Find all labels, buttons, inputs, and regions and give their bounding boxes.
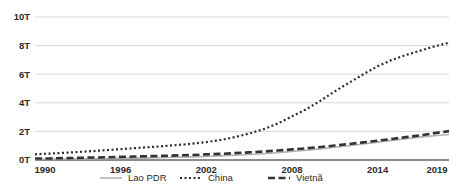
- y-axis-tick-label: 10T: [14, 11, 31, 22]
- chart-canvas: 0T2T4T6T8T10T 199019962002200820142019 L…: [0, 0, 452, 190]
- legend-label: China: [208, 172, 234, 183]
- y-axis-tick-label: 0T: [19, 154, 30, 165]
- series-line-lao-pdr: [35, 135, 449, 160]
- y-axis-tick-label: 6T: [19, 69, 30, 80]
- y-axis-tick-label: 4T: [19, 97, 30, 108]
- gridlines: [35, 17, 449, 131]
- legend-label: Lao PDR: [128, 172, 167, 183]
- x-axis-tick-label: 2019: [426, 164, 447, 175]
- y-axis-tick-labels: 0T2T4T6T8T10T: [14, 11, 31, 165]
- series-line-china: [35, 43, 449, 155]
- y-axis-tick-label: 2T: [19, 126, 30, 137]
- x-axis-tick-labels: 199019962002200820142019: [34, 164, 447, 175]
- legend-label: Vietnã: [296, 172, 323, 183]
- x-axis-tick-label: 2014: [367, 164, 389, 175]
- line-chart: 0T2T4T6T8T10T 199019962002200820142019 L…: [0, 0, 452, 190]
- x-axis-tick-label: 1990: [34, 164, 55, 175]
- data-series: [35, 43, 449, 160]
- y-axis-tick-label: 8T: [19, 40, 30, 51]
